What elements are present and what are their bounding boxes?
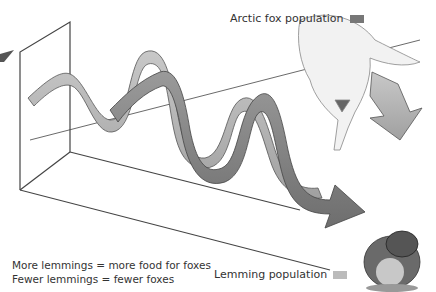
lemming-legend-label: Lemming population [214, 268, 327, 281]
population-cycle-diagram [0, 0, 436, 292]
lemming-illustration [364, 231, 420, 292]
lemming-arrow-head [370, 72, 422, 140]
lemming-legend-swatch [333, 271, 347, 279]
note-more-lemmings: More lemmings = more food for foxes [12, 258, 211, 272]
fox-legend: Arctic fox population [230, 12, 364, 25]
arrow-tip-left [0, 50, 14, 62]
note-fewer-lemmings: Fewer lemmings = fewer foxes [12, 272, 174, 286]
lemming-legend: Lemming population [214, 268, 347, 281]
fox-legend-swatch [350, 15, 364, 23]
fox-legend-label: Arctic fox population [230, 12, 344, 25]
